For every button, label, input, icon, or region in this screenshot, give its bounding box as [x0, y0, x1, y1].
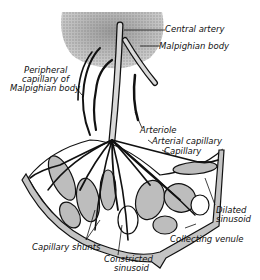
label-central-artery: Central artery: [165, 25, 224, 34]
label-peripheral-capillary-3: Malpighian body: [10, 84, 80, 93]
label-collecting-venule: Collecting venule: [170, 235, 244, 244]
label-arteriole: Arteriole: [140, 126, 177, 135]
label-capillary-shunts: Capillary shunts: [32, 243, 100, 252]
label-malpighian-body: Malpighian body: [159, 42, 229, 51]
label-constricted-sinusoid-2: sinusoid: [114, 264, 149, 273]
label-dilated-sinusoid-2: sinusoid: [216, 215, 251, 224]
label-arterial-capillary: Arterial capillary: [152, 137, 222, 146]
label-capillary: Capillary: [164, 147, 201, 156]
spleen-circulation-diagram: Central artery Malpighian body Periphera…: [0, 0, 260, 280]
